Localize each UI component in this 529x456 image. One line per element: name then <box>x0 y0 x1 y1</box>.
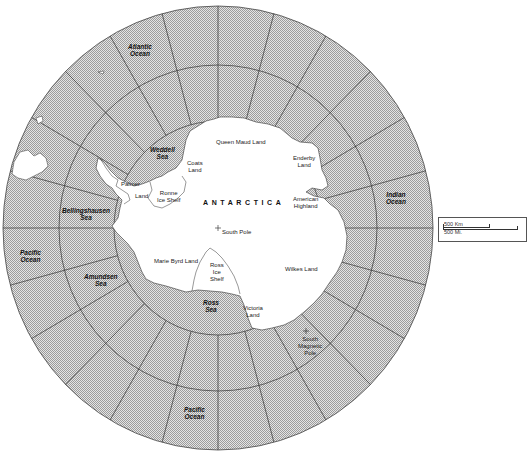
label-south-pole: South Pole <box>222 229 251 236</box>
label-pacific-ocean-south: Pacific Ocean <box>184 406 205 420</box>
scale-mi-bar <box>443 226 518 230</box>
label-ross-sea: Ross Sea <box>203 299 219 313</box>
label-palmer: Palmer <box>121 181 140 188</box>
label-wilkes-land: Wilkes Land <box>285 266 318 273</box>
label-atlantic-ocean: Atlantic Ocean <box>128 43 152 57</box>
label-victoria-land: Victoria Land <box>243 305 263 319</box>
label-bellingshausen-sea: Bellingshausen Sea <box>62 207 110 221</box>
label-weddell-sea: Weddell Sea <box>150 146 175 160</box>
label-ronne-ice-shelf: Ronne Ice Shelf <box>157 190 180 204</box>
label-indian-ocean: Indian Ocean <box>386 191 406 205</box>
label-queen-maud-land: Queen Maud Land <box>216 139 266 146</box>
label-enderby-land: Enderby Land <box>293 155 315 169</box>
label-ross-ice-shelf: Ross Ice Shelf <box>210 262 224 283</box>
label-south-magnetic-pole: South Magnetic Pole <box>298 336 322 357</box>
label-american-highland: American Highland <box>293 196 318 210</box>
label-amundsen-sea: Amundsen Sea <box>84 273 118 287</box>
label-land: Land <box>135 193 148 200</box>
label-antarctica: ANTARCTICA <box>203 199 284 206</box>
label-coats-land: Coats Land <box>187 160 203 174</box>
label-pacific-ocean-west: Pacific Ocean <box>20 249 41 263</box>
label-marie-byrd-land: Marie Byrd Land <box>154 258 198 265</box>
scale-legend: 500 Km 500 Mi. <box>438 217 527 242</box>
